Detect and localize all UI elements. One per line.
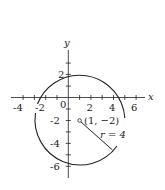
y-axis-label: y [63, 37, 70, 48]
y-axis [66, 50, 71, 178]
center-label: (1, −2) [84, 115, 119, 126]
y-tick-label-neg2: -2 [50, 115, 60, 126]
circle-arc-right [121, 103, 125, 118]
x-tick-label-6: 6 [131, 102, 137, 113]
origin-label: 0 [60, 99, 66, 110]
y-tick-label-neg4: -4 [50, 138, 60, 149]
x-tick-label-neg4: -4 [13, 102, 23, 113]
x-axis [11, 95, 145, 100]
coordinate-diagram: y x 0 -4 -2 2 4 6 2 -2 -4 -6 (1, −2) r =… [0, 0, 165, 190]
y-tick-label-neg6: -6 [50, 161, 60, 172]
x-axis-label: x [148, 91, 154, 102]
radius-label: r = 4 [100, 129, 126, 140]
y-tick-label-2: 2 [58, 69, 64, 80]
center-point [78, 119, 82, 123]
x-tick-label-2: 2 [87, 102, 93, 113]
x-tick-label-4: 4 [109, 102, 115, 113]
x-tick-label-neg2: -2 [35, 102, 45, 113]
